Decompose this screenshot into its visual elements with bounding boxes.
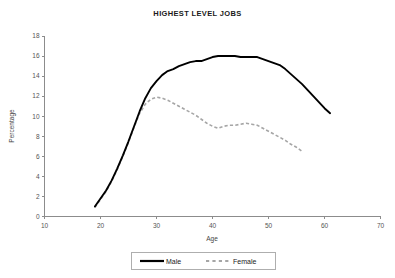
legend-label-male: Male — [166, 258, 181, 265]
chart-legend: Male Female — [132, 253, 276, 270]
x-tick-label: 70 — [377, 222, 385, 229]
y-axis-title: Percentage — [8, 109, 16, 143]
y-tick-label: 0 — [36, 213, 40, 220]
legend-label-female: Female — [233, 258, 256, 265]
x-tick-label: 30 — [153, 222, 161, 229]
y-tick-label: 6 — [36, 153, 40, 160]
x-axis: 10203040506070 Age — [41, 217, 385, 244]
y-tick-label: 4 — [36, 173, 40, 180]
chart-plot-area: 024681012141618 Percentage 1020304050607… — [0, 0, 395, 278]
x-axis-ticks: 10203040506070 — [41, 217, 385, 229]
y-tick-label: 2 — [36, 193, 40, 200]
y-tick-label: 16 — [32, 52, 40, 59]
chart-container: HIGHEST LEVEL JOBS 024681012141618 Perce… — [0, 0, 395, 278]
x-tick-label: 40 — [209, 222, 217, 229]
series-line-male — [95, 56, 330, 206]
y-tick-label: 10 — [32, 113, 40, 120]
x-tick-label: 20 — [97, 222, 105, 229]
y-axis: 024681012141618 Percentage — [8, 32, 45, 220]
series-line-female — [95, 97, 302, 207]
y-tick-label: 18 — [32, 32, 40, 39]
x-tick-label: 10 — [41, 222, 49, 229]
y-axis-ticks: 024681012141618 — [32, 32, 44, 220]
x-axis-title: Age — [206, 235, 218, 243]
y-tick-label: 8 — [36, 133, 40, 140]
x-tick-label: 60 — [321, 222, 329, 229]
y-tick-label: 14 — [32, 72, 40, 79]
y-tick-label: 12 — [32, 92, 40, 99]
chart-series-group — [95, 56, 330, 207]
x-tick-label: 50 — [265, 222, 273, 229]
